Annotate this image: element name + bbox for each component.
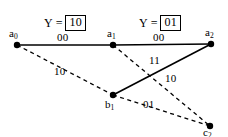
node-label-c2: c2 <box>203 127 212 137</box>
y-value-box: 10 <box>65 15 86 31</box>
edge-a1-a2 <box>113 44 211 45</box>
node-dots <box>14 41 214 129</box>
edge-label-b1-a2: 11 <box>149 55 160 66</box>
node-dot-a0 <box>14 42 20 48</box>
node-label-subscript: 0 <box>14 32 18 41</box>
node-label-subscript: 2 <box>208 131 212 137</box>
y-variable-label: Y <box>139 17 148 29</box>
trellis-diagram-canvas: Y = 10 Y = 01 a0 a1 a2 b1 c2 00 00 11 10… <box>0 0 228 137</box>
node-label-subscript: 2 <box>210 31 214 40</box>
y-annotation-stage-1: Y = 10 <box>44 15 86 31</box>
edge-label-b1-c2: 01 <box>143 99 154 110</box>
node-label-a2: a2 <box>205 27 214 38</box>
edge-lines <box>17 44 211 126</box>
edge-b1-a2 <box>113 44 211 95</box>
y-equals-sign: = <box>151 17 158 29</box>
node-label-b1: b1 <box>105 99 114 110</box>
edge-a1-c2 <box>113 45 210 126</box>
edge-label-a0-b1: 10 <box>54 66 65 77</box>
node-label-subscript: 1 <box>111 103 115 112</box>
node-label-base: b <box>105 98 111 110</box>
edge-b1-c2 <box>113 95 210 126</box>
y-equals-sign: = <box>56 17 63 29</box>
edge-label-a1-a2: 00 <box>153 32 164 43</box>
edge-label-a1-c2: 10 <box>165 73 176 84</box>
edge-label-a0-a1: 00 <box>57 32 68 43</box>
node-dot-a2 <box>208 41 214 47</box>
node-dot-a1 <box>110 42 116 48</box>
y-value-box: 01 <box>160 15 181 31</box>
y-annotation-stage-2: Y = 01 <box>139 15 181 31</box>
node-label-a0: a0 <box>9 28 18 39</box>
trellis-graph-svg <box>0 0 228 137</box>
node-label-a1: a1 <box>107 28 116 39</box>
node-label-subscript: 1 <box>112 32 116 41</box>
y-variable-label: Y <box>44 17 53 29</box>
